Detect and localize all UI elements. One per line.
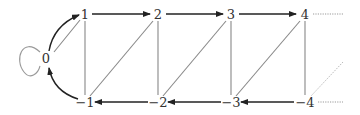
- diag-4-to-minus3: [236, 21, 300, 96]
- node-label-minus4: −4: [295, 95, 314, 110]
- self-loop-0: [20, 47, 40, 76]
- arrow-minus1-to-0: [49, 68, 78, 99]
- line-0-to-1: [54, 20, 80, 52]
- node-label-minus1: −1: [75, 95, 94, 110]
- graph-diagram: 0 1 2 3 4 −1 −2 −3 −4: [0, 0, 360, 115]
- node-label-1: 1: [81, 7, 89, 22]
- arrow-0-to-1: [49, 15, 79, 51]
- diag-3-to-minus2: [163, 21, 226, 96]
- node-label-3: 3: [227, 7, 235, 22]
- node-label-4: 4: [301, 7, 309, 22]
- node-label-2: 2: [154, 7, 162, 22]
- diag-2-to-minus1: [90, 21, 153, 96]
- node-label-0: 0: [42, 51, 50, 66]
- node-label-minus2: −2: [148, 95, 167, 110]
- diag-dotted-beyond: [311, 62, 343, 96]
- node-label-minus3: −3: [221, 95, 240, 110]
